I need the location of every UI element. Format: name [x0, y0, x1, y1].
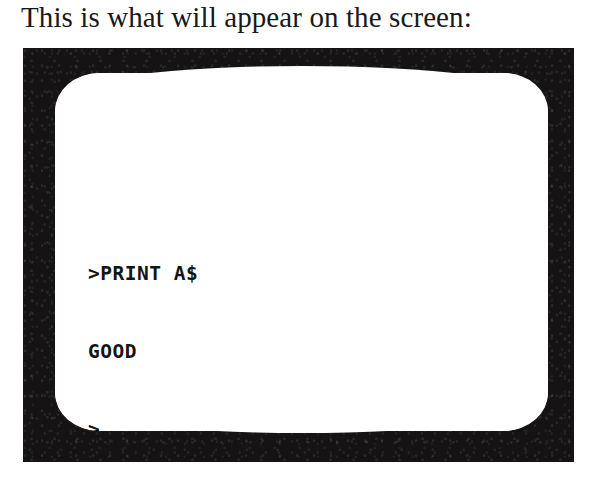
terminal-cursor	[101, 435, 117, 438]
crt-monitor-illustration: >PRINT A$ GOOD >	[23, 48, 574, 462]
terminal-prompt-symbol: >	[88, 418, 100, 441]
terminal-line-prompt: >	[88, 417, 198, 443]
terminal-line-command: >PRINT A$	[88, 261, 198, 287]
page-caption: This is what will appear on the screen:	[21, 0, 472, 37]
terminal-text-area: >PRINT A$ GOOD >	[88, 209, 198, 481]
terminal-line-output: GOOD	[88, 339, 198, 365]
